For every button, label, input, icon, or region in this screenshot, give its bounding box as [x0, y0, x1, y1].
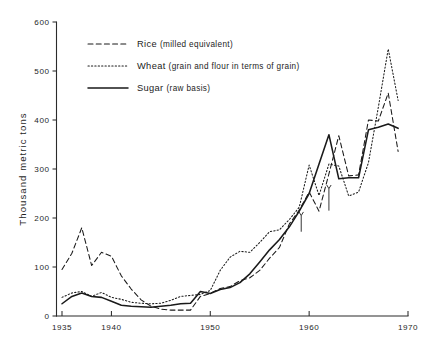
y-axis-title: Thousand metric tons [17, 112, 28, 225]
chart-annotations [299, 185, 331, 232]
x-tick-label: 1960 [299, 323, 319, 332]
y-tick-label: 100 [34, 263, 49, 272]
legend-label-rice: Rice (milled equivalent) [137, 39, 233, 49]
annotation-arrow-head [327, 185, 331, 189]
y-tick-label: 0 [44, 312, 49, 321]
y-tick-label: 500 [34, 67, 49, 76]
y-tick-label: 400 [34, 116, 49, 125]
legend-label-sugar: Sugar (raw basis) [137, 83, 210, 93]
x-tick-label: 1950 [200, 323, 220, 332]
series-line-wheat [62, 49, 398, 304]
annotation-arrow-head [299, 212, 303, 216]
series-line-rice [62, 93, 398, 310]
y-tick-label: 300 [34, 165, 49, 174]
y-tick-label: 600 [34, 18, 49, 27]
legend-label-wheat: Wheat (grain and flour in terms of grain… [137, 61, 300, 71]
x-tick-label: 1940 [101, 323, 121, 332]
x-axis-tick-labels: 19351940195019601970 [52, 323, 418, 332]
chart-legend: Rice (milled equivalent)Wheat (grain and… [88, 39, 300, 93]
chart-page: 0100200300400500600 19351940195019601970… [0, 0, 432, 345]
line-chart: 0100200300400500600 19351940195019601970… [0, 0, 432, 345]
y-axis-ticks [53, 22, 57, 316]
x-tick-label: 1970 [398, 323, 418, 332]
x-tick-label: 1935 [52, 323, 72, 332]
series-line-sugar [62, 124, 398, 307]
y-tick-label: 200 [34, 214, 49, 223]
x-axis-ticks [62, 311, 408, 316]
y-axis-tick-labels: 0100200300400500600 [34, 18, 49, 321]
